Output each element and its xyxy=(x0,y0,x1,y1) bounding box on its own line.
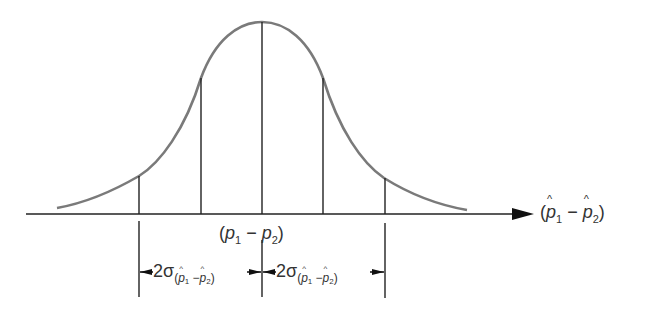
right-2sigma-label: 2σ(p1 −p2) xyxy=(276,261,338,282)
two-sigma: 2σ xyxy=(276,261,297,281)
p-2: p xyxy=(262,223,272,243)
sigma-subscript: (p1 −p2) xyxy=(297,271,338,285)
subscript-2: 2 xyxy=(593,213,599,225)
p-hat-2: p xyxy=(583,202,593,223)
two-sigma: 2σ xyxy=(153,261,174,281)
sigma-subscript: (p1 −p2) xyxy=(174,271,215,285)
mean-label: (p1 − p2) xyxy=(219,223,284,244)
axis-arrow-icon xyxy=(512,208,534,220)
subscript-1: 1 xyxy=(556,213,562,225)
x-axis-label: (p1 − p2) xyxy=(540,202,605,223)
subscript-2: 2 xyxy=(272,234,278,246)
subscript-1: 1 xyxy=(235,234,241,246)
paren-close: ) xyxy=(599,202,605,222)
minus-sign: − xyxy=(241,223,262,243)
paren-close: ) xyxy=(278,223,284,243)
left-2sigma-label: 2σ(p1 −p2) xyxy=(153,261,215,282)
minus-sign: − xyxy=(562,202,583,222)
p-hat-1: p xyxy=(546,202,556,223)
p-1: p xyxy=(225,223,235,243)
